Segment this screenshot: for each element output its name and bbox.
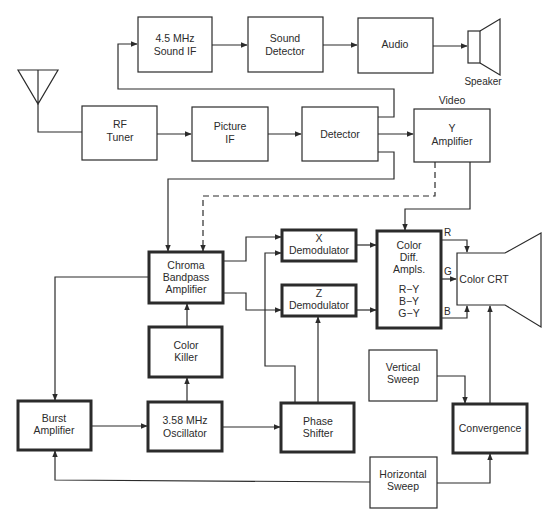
speaker-icon [468, 19, 500, 75]
block-label: Convergence [459, 422, 522, 434]
block-label: Amplifier [166, 283, 207, 295]
block-audio: Audio [358, 18, 433, 73]
wire-hsweep-burst [55, 451, 370, 482]
block-color-diff-ampls: Color Diff. Ampls. R−Y B−Y G−Y [377, 231, 441, 328]
block-phase-shifter: Phase Shifter [281, 403, 354, 452]
block-horizontal-sweep: Horizontal Sweep [370, 457, 437, 508]
block-burst-amplifier: Burst Amplifier [18, 401, 91, 450]
block-label: Killer [174, 351, 198, 363]
block-label: Audio [382, 38, 409, 50]
block-label: R−Y [399, 283, 420, 295]
block-label: Bandpass [163, 271, 210, 283]
block-label: Sound [270, 32, 301, 44]
block-label: Horizontal [379, 468, 426, 480]
block-color-killer: Color Killer [149, 327, 222, 377]
block-label: Detector [265, 45, 305, 57]
block-label: Sound IF [154, 45, 197, 57]
block-label: Demodulator [289, 244, 350, 256]
block-label: Oscillator [163, 427, 207, 439]
block-label: Y [448, 122, 455, 134]
block-label: Color [396, 239, 422, 251]
block-y-amplifier: Y Amplifier [414, 109, 490, 162]
block-label: Burst [42, 412, 67, 424]
b-output-label: B [444, 306, 451, 317]
wire-chroma-xdemod [223, 237, 281, 261]
block-label: Tuner [106, 131, 134, 143]
block-label: Diff. [400, 251, 418, 263]
block-label: RF [113, 118, 127, 130]
g-output-label: G [444, 266, 452, 277]
block-label: X [315, 232, 322, 244]
block-convergence: Convergence [453, 404, 527, 453]
block-label: Amplifier [432, 135, 473, 147]
block-label: 4.5 MHz [155, 32, 194, 44]
block-label: B−Y [399, 295, 419, 307]
block-label: 3.58 MHz [163, 414, 208, 426]
block-label: Picture [214, 120, 247, 132]
block-chroma-bandpass-amplifier: Chroma Bandpass Amplifier [149, 252, 223, 303]
block-label: Detector [320, 128, 360, 140]
block-label: Amplifier [34, 424, 75, 436]
wire-r-crt [441, 240, 467, 252]
r-output-label: R [444, 227, 451, 238]
video-label: Video [439, 94, 466, 106]
block-label: Shifter [303, 427, 334, 439]
block-label: Z [316, 287, 323, 299]
wire-vsweep-convergence [437, 376, 465, 403]
wire-hsweep-convergence [437, 454, 490, 483]
antenna-icon [18, 70, 58, 104]
block-z-demodulator: Z Demodulator [282, 285, 356, 316]
block-x-demodulator: X Demodulator [282, 230, 356, 261]
block-rf-tuner: RF Tuner [82, 106, 157, 160]
wire-chroma-zdemod [223, 293, 281, 310]
block-detector: Detector [302, 107, 378, 161]
block-sound-detector: Sound Detector [248, 17, 323, 72]
block-vertical-sweep: Vertical Sweep [369, 350, 437, 401]
wire-chroma-burst [55, 277, 149, 400]
block-label: G−Y [398, 307, 419, 319]
block-label: Sweep [387, 373, 419, 385]
wire-antenna-rftuner [38, 104, 82, 132]
block-label: Chroma [167, 259, 205, 271]
block-label: IF [225, 133, 234, 145]
block-label: Vertical [386, 361, 420, 373]
block-label: Sweep [387, 480, 419, 492]
speaker-label: Speaker [464, 76, 502, 87]
block-label: Ampls. [393, 263, 425, 275]
tv-block-diagram: Speaker Video 4.5 MHz Sound IF Sound Det… [0, 0, 554, 525]
crt-tube-icon: Color CRT [457, 233, 541, 327]
block-label: Demodulator [289, 299, 350, 311]
block-picture-if: Picture IF [192, 107, 268, 161]
block-label: Color [173, 339, 199, 351]
block-sound-if: 4.5 MHz Sound IF [138, 17, 212, 72]
block-label: Phase [303, 415, 333, 427]
wire-phase-xdemod [265, 253, 295, 403]
block-label: Color CRT [459, 273, 509, 285]
block-oscillator: 3.58 MHz Oscillator [148, 402, 222, 451]
